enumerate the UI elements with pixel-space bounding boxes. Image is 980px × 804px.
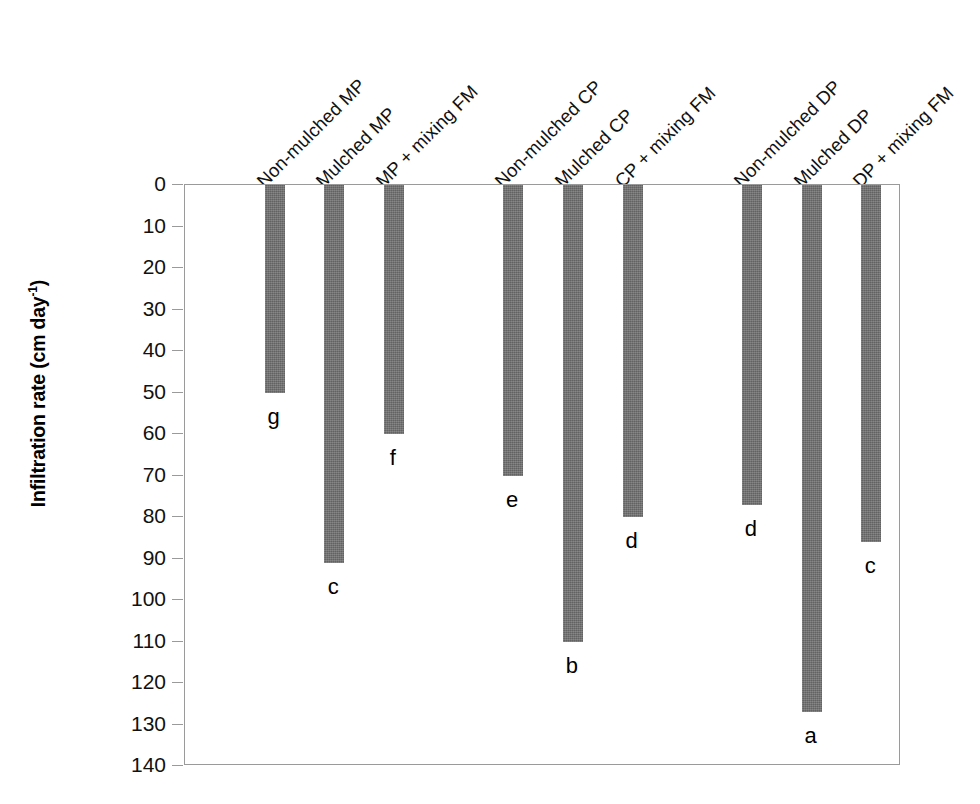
y-axis-tick-mark (172, 392, 183, 393)
bar (563, 185, 583, 642)
x-axis-category-label: CP + mixing FM (610, 82, 720, 192)
y-axis-tick-label: 20 (108, 256, 166, 277)
bar-significance-letter: c (311, 576, 355, 598)
y-axis-tick-mark (172, 558, 183, 559)
y-axis-tick-mark (172, 765, 183, 766)
y-axis-tick-label: 10 (108, 215, 166, 236)
bar (324, 185, 344, 563)
y-axis-tick-mark (172, 724, 183, 725)
y-axis-tick-label: 140 (108, 754, 166, 775)
y-axis-title: Infiltration rate (cm day-1) (27, 174, 50, 614)
bar-significance-letter: g (252, 406, 296, 428)
y-axis-tick-label: 90 (108, 547, 166, 568)
bar-significance-letter: d (729, 518, 773, 540)
y-axis-tick-mark (172, 267, 183, 268)
y-axis-tick-mark (172, 433, 183, 434)
y-axis-tick-mark (172, 350, 183, 351)
y-axis-tick-labels: 0102030405060708090100110120130140 (104, 0, 166, 804)
y-axis-tick-mark (172, 599, 183, 600)
bar (503, 185, 523, 476)
bar (742, 185, 762, 505)
y-axis-tick-label: 0 (108, 173, 166, 194)
y-axis-tick-label: 70 (108, 464, 166, 485)
bar-significance-letter: f (371, 447, 415, 469)
bar (623, 185, 643, 517)
y-axis-tick-label: 110 (108, 630, 166, 651)
y-axis-title-exponent: -1 (26, 286, 40, 296)
y-axis-tick-mark (172, 309, 183, 310)
y-axis-tick-mark (172, 641, 183, 642)
y-axis-tick-label: 60 (108, 422, 166, 443)
y-axis-tick-mark (172, 682, 183, 683)
y-axis-tick-mark (172, 184, 183, 185)
x-axis-category-label: MP + mixing FM (371, 81, 482, 192)
y-axis-tick-label: 120 (108, 671, 166, 692)
y-axis-tick-mark (172, 516, 183, 517)
y-axis-tick-mark (172, 475, 183, 476)
bar-significance-letter: d (610, 530, 654, 552)
y-axis-tick-label: 40 (108, 339, 166, 360)
y-axis-title-text: Infiltration rate (cm day (27, 297, 49, 508)
bar-significance-letter: e (490, 489, 534, 511)
y-axis-tick-label: 100 (108, 588, 166, 609)
bar (384, 185, 404, 434)
y-axis-tick-label: 50 (108, 381, 166, 402)
x-axis-category-label: DP + mixing FM (849, 82, 959, 192)
bar (802, 185, 822, 712)
bar (265, 185, 285, 393)
figure-root: Infiltration rate (cm day-1) 01020304050… (0, 0, 980, 804)
y-axis-tick-mark (172, 226, 183, 227)
y-axis-tick-label: 130 (108, 713, 166, 734)
x-axis-category-label: Non-mulched DP (729, 76, 845, 192)
bar-significance-letter: a (789, 725, 833, 747)
y-axis-title-suffix: ) (27, 280, 49, 286)
y-axis-tick-label: 30 (108, 298, 166, 319)
y-axis-tick-label: 80 (108, 505, 166, 526)
bar-significance-letter: c (848, 555, 892, 577)
bar-significance-letter: b (550, 655, 594, 677)
bar (861, 185, 881, 542)
x-axis-category-label: Non-mulched CP (491, 76, 607, 192)
x-axis-category-label: Non-mulched MP (252, 74, 370, 192)
plot-area (184, 184, 900, 765)
